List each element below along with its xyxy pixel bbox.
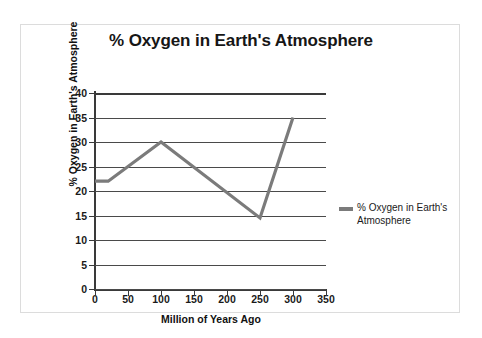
y-axis-tick-label: 20 [63,185,87,197]
x-axis-tick-mark [95,290,96,296]
plot-area [95,93,326,289]
y-axis-tick-mark [89,216,94,217]
x-axis-tick-mark [194,290,195,296]
legend-line-swatch [339,207,353,211]
y-axis-tick-label: 30 [63,136,87,148]
y-axis-tick-mark [89,265,94,266]
chart-legend: % Oxygen in Earth's Atmosphere [339,201,457,227]
x-axis-tick-mark [128,290,129,296]
x-axis-tick-mark [260,290,261,296]
x-axis-tick-mark [161,290,162,296]
y-axis-tick-mark [89,240,94,241]
data-series-line [95,93,326,289]
y-axis-tick-label: 40 [63,87,87,99]
chart-title: % Oxygen in Earth's Atmosphere [21,31,461,51]
y-axis-tick-label: 35 [63,112,87,124]
gridline [95,289,326,290]
y-axis-tick-label: 15 [63,210,87,222]
x-axis-tick-mark [326,290,327,296]
y-axis-tick-label: 10 [63,234,87,246]
x-axis-tick-mark [293,290,294,296]
y-axis-tick-mark [89,289,94,290]
x-axis-title: Million of Years Ago [61,313,361,325]
y-axis-tick-mark [89,118,94,119]
chart-figure: % Oxygen in Earth's Atmosphere % Oxygen … [20,24,460,313]
series-polyline [95,118,293,218]
y-axis-tick-mark [89,167,94,168]
y-axis-title: % Oxygen in Earth's Atmosphere [67,4,79,204]
y-axis-tick-mark [89,93,94,94]
y-axis-tick-label: 25 [63,161,87,173]
y-axis-tick-mark [89,191,94,192]
x-axis-tick-mark [227,290,228,296]
y-axis-tick-label: 5 [63,259,87,271]
legend-item-label: % Oxygen in Earth's Atmosphere [357,201,457,227]
y-axis-tick-mark [89,142,94,143]
